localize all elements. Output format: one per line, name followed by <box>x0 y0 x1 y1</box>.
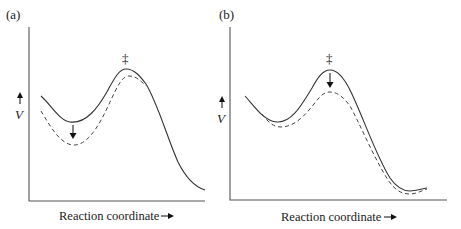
panel-b-up-arrowhead-icon <box>219 96 225 102</box>
panel-a-transition-state-marker: ‡ <box>122 51 129 66</box>
panel-b-label: (b) <box>219 7 234 22</box>
panel-a-label: (a) <box>6 7 20 22</box>
panel-a-x-axis-label: Reaction coordinate <box>59 209 174 223</box>
panel-a-down-arrow-icon <box>70 125 77 139</box>
panel-a-y-axis-label: V <box>15 92 25 122</box>
panel-b-solid-curve <box>245 70 427 191</box>
panel-a: (a) V ‡ Reaction coordinate <box>6 7 205 223</box>
panel-b: (b) V ‡ Reaction coordinate <box>217 7 447 224</box>
panel-b-v-label: V <box>217 111 227 126</box>
panel-a-right-arrowhead-icon <box>168 213 174 219</box>
reaction-coordinate-diagram: (a) V ‡ Reaction coordinate (b) <box>0 0 461 229</box>
panel-a-v-label: V <box>15 107 25 122</box>
panel-a-axes <box>29 27 205 201</box>
panel-b-dashed-curve <box>262 92 427 194</box>
panel-b-down-arrow-icon <box>327 73 334 88</box>
panel-b-y-axis-label: V <box>217 96 227 126</box>
panel-b-transition-state-marker: ‡ <box>326 51 333 66</box>
panel-b-x-axis-label: Reaction coordinate <box>281 210 397 224</box>
panel-b-right-arrowhead-icon <box>391 214 397 220</box>
panel-a-up-arrowhead-icon <box>17 92 23 98</box>
panel-b-x-label-text: Reaction coordinate <box>281 210 382 224</box>
panel-b-axes <box>230 27 447 200</box>
panel-a-solid-curve <box>41 69 205 190</box>
panel-a-x-label-text: Reaction coordinate <box>59 209 160 223</box>
